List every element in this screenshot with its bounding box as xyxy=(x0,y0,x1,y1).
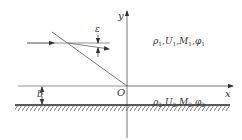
origin-label: O xyxy=(117,88,125,98)
angle-label: ε xyxy=(95,25,100,34)
x-axis-label: x xyxy=(225,89,231,99)
height-label: b xyxy=(37,90,43,99)
y-axis-label: y xyxy=(118,11,124,21)
region1-properties: ρ1,U1,M1,φ1 xyxy=(153,37,205,48)
shock-line xyxy=(52,32,127,86)
flow-diagram xyxy=(0,0,242,140)
region2-properties: ρ2,U2,M2,φ2 xyxy=(153,98,205,109)
